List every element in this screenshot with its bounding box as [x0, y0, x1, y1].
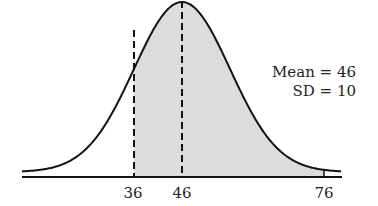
stats-annotation: Mean = 46 SD = 10: [272, 63, 356, 101]
normal-curve-chart: [0, 0, 378, 206]
tick-label-36: 36: [123, 184, 142, 202]
mean-label: Mean = 46: [272, 63, 356, 82]
tick-label-76: 76: [314, 184, 333, 202]
tick-label-46: 46: [172, 184, 191, 202]
sd-label: SD = 10: [272, 82, 356, 101]
